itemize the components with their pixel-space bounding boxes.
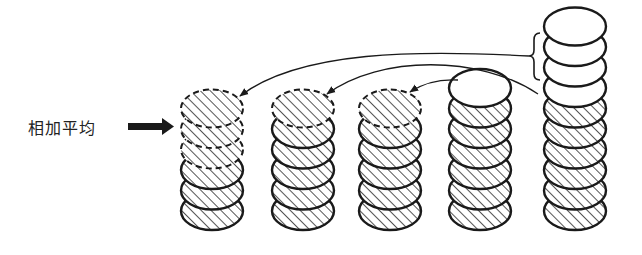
white-disc bbox=[449, 69, 511, 107]
disc-stack-1 bbox=[181, 90, 243, 231]
dashed-disc bbox=[272, 90, 334, 128]
disc-stack-2 bbox=[272, 90, 334, 231]
disc-stack-3 bbox=[359, 90, 421, 231]
disc-stack-5 bbox=[544, 8, 606, 231]
brace-icon bbox=[529, 33, 540, 80]
dashed-disc bbox=[181, 90, 243, 128]
disc-stack-4 bbox=[449, 69, 511, 230]
thick-right-arrow-icon bbox=[128, 118, 174, 135]
white-disc bbox=[544, 8, 606, 46]
disc-stack-diagram bbox=[0, 0, 642, 255]
dashed-disc bbox=[359, 90, 421, 128]
